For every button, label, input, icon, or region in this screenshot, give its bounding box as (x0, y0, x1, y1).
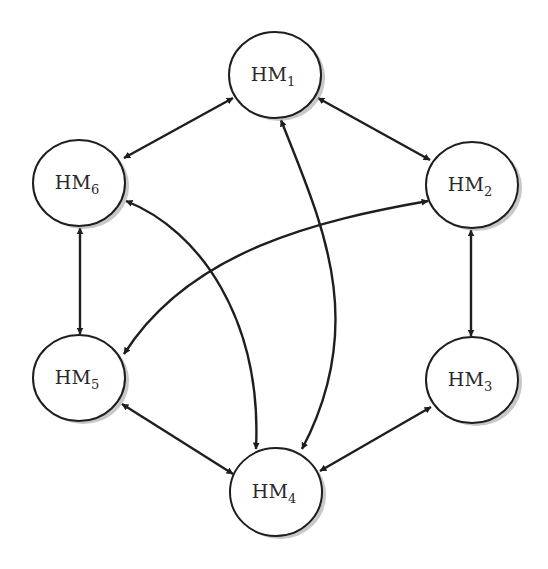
node-hm3: HM3 (426, 337, 522, 426)
hm-network-diagram: HM1 HM2 HM3 HM4 HM5 HM6 (0, 0, 548, 569)
node-hm4: HM4 (230, 448, 326, 539)
node-hm1: HM1 (229, 32, 325, 121)
edge-hm3-hm4 (320, 407, 431, 471)
edge-hm5-hm4 (122, 404, 233, 474)
edges (80, 98, 471, 474)
edge-hm1-hm2 (318, 98, 430, 160)
node-hm2: HM2 (426, 142, 522, 231)
edge-hm1-hm6 (124, 98, 233, 158)
node-hm6: HM6 (33, 140, 129, 229)
edge-hm2-hm5 (124, 201, 428, 354)
edge-hm1-hm4 (281, 120, 336, 449)
node-hm5: HM5 (33, 335, 129, 424)
